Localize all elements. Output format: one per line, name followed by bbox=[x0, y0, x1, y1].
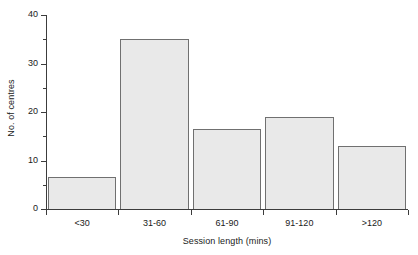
y-tick-label: 20 bbox=[16, 107, 38, 116]
y-tick-label: 40 bbox=[16, 10, 38, 19]
x-category-label: 61-90 bbox=[191, 219, 263, 228]
y-tick-minor bbox=[43, 136, 46, 137]
y-tick-minor bbox=[43, 88, 46, 89]
bar-31-60 bbox=[120, 39, 188, 209]
x-category-label: >120 bbox=[336, 219, 408, 228]
x-axis-line bbox=[46, 209, 408, 210]
x-axis-title: Session length (mins) bbox=[46, 236, 408, 246]
bar-30 bbox=[48, 177, 116, 209]
y-tick-minor bbox=[43, 39, 46, 40]
y-tick-major bbox=[41, 15, 46, 16]
y-tick-minor bbox=[43, 185, 46, 186]
x-category-label: 91-120 bbox=[263, 219, 335, 228]
x-tick bbox=[336, 210, 337, 215]
y-tick-major bbox=[41, 161, 46, 162]
bar-91-120 bbox=[265, 117, 333, 209]
x-category-label: <30 bbox=[46, 219, 118, 228]
x-tick bbox=[408, 210, 409, 215]
x-tick bbox=[191, 210, 192, 215]
x-tick bbox=[263, 210, 264, 215]
x-category-label: 31-60 bbox=[118, 219, 190, 228]
x-tick bbox=[46, 210, 47, 215]
y-axis-line bbox=[46, 15, 47, 210]
bar-61-90 bbox=[193, 129, 261, 209]
y-axis-title-label: No. of centres bbox=[6, 79, 16, 136]
x-axis-title-label: Session length (mins) bbox=[183, 236, 272, 246]
y-tick-label: 10 bbox=[16, 156, 38, 165]
bar-120 bbox=[338, 146, 406, 209]
y-tick-label: 0 bbox=[16, 204, 38, 213]
y-tick-major bbox=[41, 112, 46, 113]
histogram-chart: No. of centres 010203040 <3031-6061-9091… bbox=[0, 0, 418, 255]
x-tick bbox=[118, 210, 119, 215]
y-tick-label: 30 bbox=[16, 59, 38, 68]
y-tick-major bbox=[41, 64, 46, 65]
